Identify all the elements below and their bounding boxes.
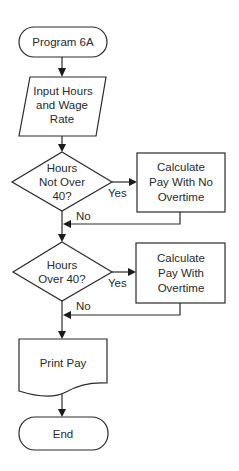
decision1-no-label: No (76, 210, 91, 222)
decision1-label-line-3: 40? (52, 190, 71, 202)
arrowhead-icon (58, 144, 66, 152)
arrowhead-icon (129, 178, 137, 186)
decision1-node: Hours Not Over 40? (12, 152, 112, 211)
process2-node: Calculate Pay With Overtime (136, 243, 225, 303)
arrow-document-to-end (58, 394, 66, 417)
input-label-line-3: Rate (50, 113, 74, 125)
arrowhead-icon (128, 268, 136, 276)
decision2-label-line-2: Over 40? (38, 273, 85, 285)
decision2-yes-label: Yes (108, 277, 127, 289)
decision1-label-line-2: Not Over (39, 176, 85, 188)
output-document-node: Print Pay (19, 339, 107, 396)
process1-label-line-1: Calculate (157, 161, 205, 173)
end-terminal: End (19, 417, 108, 450)
process2-label-line-2: Pay With (158, 267, 204, 279)
decision2-label-line-1: Hours (47, 259, 78, 271)
arrow-start-to-input (58, 57, 66, 77)
process2-label-line-1: Calculate (157, 252, 205, 264)
start-terminal: Program 6A (19, 27, 107, 57)
arrow-decision1-yes: Yes (108, 178, 137, 199)
process1-label-line-3: Overtime (158, 191, 205, 203)
arrowhead-icon (58, 409, 66, 417)
decision1-label-line-1: Hours (47, 162, 78, 174)
decision2-node: Hours Over 40? (13, 242, 112, 301)
decision2-diamond-shape (13, 242, 112, 301)
process1-node: Calculate Pay With No Overtime (137, 153, 225, 212)
decision1-yes-label: Yes (108, 187, 127, 199)
arrowhead-icon (58, 331, 66, 339)
end-terminal-label: End (53, 428, 73, 440)
start-terminal-label: Program 6A (32, 36, 94, 48)
flowchart-diagram: Program 6A Input Hours and Wage Rate Hou… (0, 0, 239, 471)
input-label-line-2: and Wage (36, 99, 88, 111)
input-node: Input Hours and Wage Rate (19, 77, 106, 136)
arrowhead-icon (58, 234, 66, 242)
arrowhead-icon (63, 220, 71, 228)
process1-label-line-2: Pay With No (149, 176, 213, 188)
arrowhead-icon (58, 68, 66, 77)
process2-label-line-3: Overtime (158, 282, 205, 294)
arrow-input-to-decision1 (58, 136, 66, 152)
arrowhead-icon (63, 311, 71, 319)
input-label-line-1: Input Hours (33, 85, 93, 97)
output-document-label: Print Pay (40, 357, 87, 369)
decision2-no-label: No (76, 300, 91, 312)
arrow-decision2-yes: Yes (108, 268, 136, 289)
